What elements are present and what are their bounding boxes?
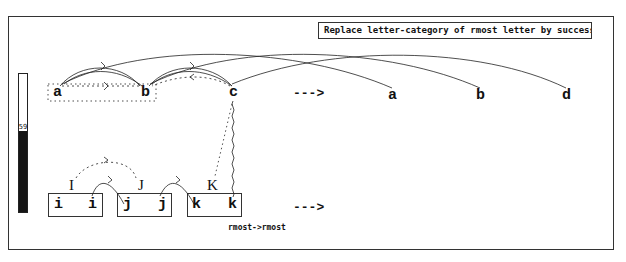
structure-overlay	[0, 0, 626, 262]
arc-c-to-d	[232, 55, 566, 88]
bond-arc-j-k	[160, 183, 194, 204]
arc-b-to-b	[150, 54, 480, 88]
bond-arc-i-j	[92, 183, 124, 204]
correspondence-dotted-c-K	[215, 104, 232, 176]
correspondence-c-k	[232, 101, 234, 197]
group-box-ab	[48, 84, 156, 101]
bond-arc-a-b	[60, 68, 140, 86]
group-bond-I-J	[76, 162, 136, 178]
